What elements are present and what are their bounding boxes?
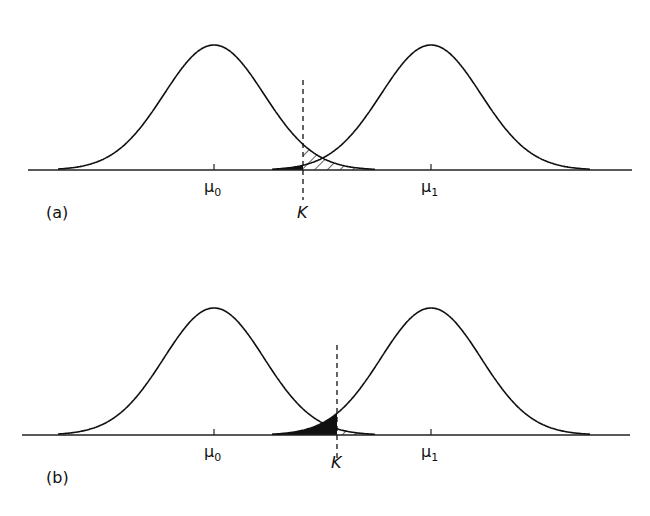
critical-value-label: K	[297, 203, 309, 222]
alternative-distribution-curve	[272, 45, 590, 169]
mu0-label: μ0	[204, 177, 221, 199]
hypothesis-test-diagram: μ0 μ1 K (a) μ0 μ1 K (b)	[0, 0, 650, 516]
mu1-label: μ1	[421, 442, 438, 464]
null-distribution-curve	[58, 45, 375, 169]
panel-label: (a)	[46, 203, 68, 222]
alternative-distribution-curve	[272, 308, 590, 434]
panel-b: μ0 μ1 K (b)	[22, 308, 630, 487]
type-i-error-region	[303, 144, 375, 170]
critical-value-label: K	[331, 453, 343, 472]
panel-a: μ0 μ1 K (a)	[28, 45, 632, 222]
type-ii-error-region	[272, 413, 337, 435]
mu0-label: μ0	[204, 442, 221, 464]
panel-label: (b)	[46, 468, 69, 487]
null-distribution-curve	[58, 308, 375, 434]
mu1-label: μ1	[421, 177, 438, 199]
